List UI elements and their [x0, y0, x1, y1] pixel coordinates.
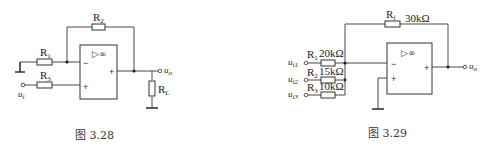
r1-value: 20kΩ — [319, 47, 344, 59]
ground-left — [15, 62, 25, 72]
ui2-label: ui2 — [288, 74, 298, 86]
r3-label: R3 — [40, 69, 51, 83]
r2-label: R2 — [93, 11, 104, 25]
r1-label: R1 — [307, 48, 318, 62]
junction-node-2 — [344, 79, 347, 82]
junction-node-1 — [343, 61, 346, 64]
uo-label: uo — [164, 65, 173, 77]
rl-label: RL — [158, 83, 170, 97]
output-sign: + — [424, 63, 429, 73]
r2-label: R2 — [307, 66, 318, 80]
plus-ground-wire — [378, 78, 387, 109]
ui-label: ui — [18, 89, 25, 101]
opamp-symbol: ▷∞ — [401, 48, 415, 58]
caption-3-29: 图 3.29 — [368, 127, 407, 140]
opamp-symbol: ▷∞ — [92, 49, 106, 59]
caption-3-28: 图 3.28 — [75, 129, 114, 142]
resistor-rl — [149, 81, 155, 96]
figure-3-29: Rf 30kΩ ui1 ui2 ui3 R1 20kΩ R2 15kΩ R3 1… — [288, 8, 478, 140]
r1-label: R1 — [40, 46, 51, 60]
rf-value: 30kΩ — [405, 12, 430, 24]
input-terminal-ui — [21, 83, 25, 87]
output-junction — [132, 69, 135, 72]
ui3-label: ui3 — [288, 89, 298, 101]
figure-3-28: R2 R1 R3 ui ▷∞ − + + uo RL 图 3.28 — [15, 11, 173, 142]
circuit-diagrams: R2 R1 R3 ui ▷∞ − + + uo RL 图 3.28 Rf — [0, 0, 488, 147]
output-junction — [446, 65, 449, 68]
plus-sign: + — [83, 82, 88, 92]
r3-value: 10kΩ — [319, 80, 344, 92]
minus-sign: − — [83, 58, 88, 68]
output-terminal-uo — [463, 65, 467, 69]
junction-node — [65, 60, 68, 63]
input-terminal-ui3 — [304, 93, 308, 97]
output-terminal-uo — [158, 69, 162, 73]
output-sign: + — [109, 67, 114, 77]
ui1-label: ui1 — [288, 57, 298, 69]
r2-value: 15kΩ — [319, 65, 344, 77]
r3-label: R3 — [307, 81, 318, 95]
rf-label: Rf — [386, 8, 396, 22]
uo-label: uo — [469, 61, 478, 73]
minus-sign: − — [391, 59, 396, 69]
plus-sign: + — [391, 74, 396, 84]
input-terminal-ui1 — [304, 61, 308, 65]
resistor-r3 — [321, 92, 335, 98]
